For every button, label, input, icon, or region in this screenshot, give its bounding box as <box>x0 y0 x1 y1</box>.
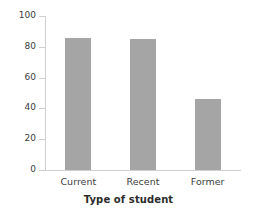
y-axis-tick-label: 100 <box>0 11 36 20</box>
y-axis-tick-label: 0 <box>0 165 36 174</box>
y-axis-tick <box>39 78 45 79</box>
y-axis-tick-label: 20 <box>0 134 36 143</box>
x-axis-tick-labels: CurrentRecentFormer <box>46 176 240 190</box>
x-axis-tick-label: Recent <box>111 176 176 188</box>
y-axis-tick <box>39 139 45 140</box>
y-axis-tick-label: 40 <box>0 103 36 112</box>
x-axis-title: Type of student <box>0 194 257 205</box>
y-axis-tick <box>39 16 45 17</box>
y-axis-tick-label: 60 <box>0 73 36 82</box>
bar <box>65 38 91 170</box>
y-axis-tick <box>39 108 45 109</box>
bar-chart: 020406080100 CurrentRecentFormer Type of… <box>0 0 257 217</box>
y-axis-tick <box>39 47 45 48</box>
y-axis-tick-label: 80 <box>0 42 36 51</box>
x-axis-tick-label: Former <box>175 176 240 188</box>
bar <box>130 39 156 170</box>
bar-series <box>46 16 240 170</box>
bar <box>195 99 221 170</box>
x-axis-line <box>45 170 241 171</box>
x-axis-tick-label: Current <box>46 176 111 188</box>
y-axis-tick <box>39 170 45 171</box>
